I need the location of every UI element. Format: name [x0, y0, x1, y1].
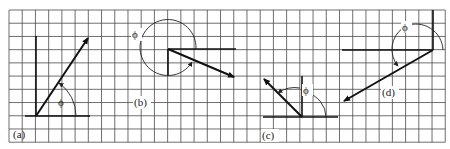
- angle-arc-d2: [392, 28, 403, 66]
- angle-arc-c: [307, 93, 326, 117]
- grid: [9, 10, 445, 142]
- angle-arc-c2: [278, 88, 300, 93]
- panel-a: ϕ (a): [13, 36, 90, 141]
- phi-label-a: ϕ: [58, 96, 64, 108]
- panel-label-a: (a): [13, 128, 26, 141]
- phi-label-c: ϕ: [303, 84, 309, 96]
- panel-label-b: (b): [134, 96, 147, 109]
- vector-angle-figure: ϕ (a) ϕ (b) ϕ (c): [0, 0, 450, 149]
- vector-c: [264, 79, 302, 117]
- panel-label-c: (c): [262, 129, 275, 142]
- phi-label-b: ϕ: [132, 28, 138, 40]
- panel-label-d: (d): [382, 86, 395, 99]
- phi-label-d: ϕ: [402, 21, 408, 33]
